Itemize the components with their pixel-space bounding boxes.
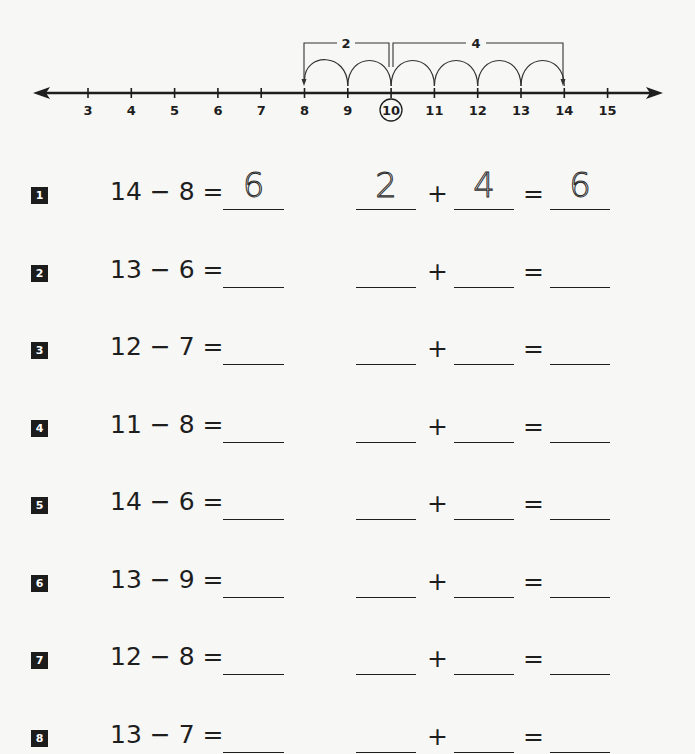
plus-sign: + [427, 489, 448, 518]
tick-label: 15 [599, 103, 617, 118]
problem-row: 7 12 − 8 = + = [0, 640, 695, 680]
jump-arc [391, 61, 434, 87]
first-addend-blank[interactable] [356, 442, 416, 443]
plus-sign: + [427, 722, 448, 751]
bracket-2-label: 2 [341, 36, 350, 51]
arrowhead-at-8 [302, 79, 307, 86]
second-addend-blank[interactable] [454, 674, 514, 675]
tick-label: 6 [213, 103, 222, 118]
first-addend-blank[interactable] [356, 597, 416, 598]
difference-answer-blank[interactable] [223, 442, 284, 443]
tick-label: 9 [343, 103, 352, 118]
problem-number-badge: 5 [31, 497, 48, 514]
problem-row: 4 11 − 8 = + = [0, 408, 695, 448]
tick-labels: 3456789101112131415 [83, 103, 616, 118]
problem-number-badge: 3 [31, 342, 48, 359]
tick-label: 4 [127, 103, 136, 118]
second-addend-blank[interactable] [454, 209, 514, 210]
second-addend-blank[interactable] [454, 287, 514, 288]
jump-arcs [305, 60, 565, 86]
equals-sign: = [523, 179, 544, 208]
tick-label: 14 [555, 103, 573, 118]
plus-sign: + [427, 179, 448, 208]
tick-label: 3 [83, 103, 92, 118]
equals-sign: = [523, 257, 544, 286]
sum-answer-blank[interactable] [550, 519, 610, 520]
difference-answer-blank[interactable] [223, 209, 284, 210]
tick-label: 13 [512, 103, 530, 118]
jump-arc [521, 61, 564, 87]
plus-sign: + [427, 257, 448, 286]
subtraction-expression: 11 − 8 = [110, 410, 223, 439]
sum-answer-blank[interactable] [550, 752, 610, 753]
equals-sign: = [523, 644, 544, 673]
subtraction-expression: 14 − 8 = [110, 177, 223, 206]
sum-answer-blank[interactable] [550, 674, 610, 675]
bracket-4-label: 4 [471, 36, 480, 51]
tick-label: 12 [469, 103, 487, 118]
sum-answer-blank[interactable] [550, 442, 610, 443]
difference-traced-answer: 6 [223, 165, 284, 205]
first-addend-blank[interactable] [356, 519, 416, 520]
difference-answer-blank[interactable] [223, 287, 284, 288]
first-addend-blank[interactable] [356, 209, 416, 210]
problem-row: 2 13 − 6 = + = [0, 253, 695, 293]
second-addend-blank[interactable] [454, 519, 514, 520]
sum-answer-blank[interactable] [550, 597, 610, 598]
second-addend-blank[interactable] [454, 597, 514, 598]
equals-sign: = [523, 412, 544, 441]
problem-number-badge: 2 [31, 265, 48, 282]
tick-label: 7 [257, 103, 266, 118]
sum-answer-blank[interactable] [550, 287, 610, 288]
jump-arc [305, 60, 348, 86]
equals-sign: = [523, 722, 544, 751]
number-line: 3456789101112131415 2 4 [0, 0, 695, 135]
plus-sign: + [427, 567, 448, 596]
second-addend-traced: 4 [454, 165, 514, 205]
plus-sign: + [427, 644, 448, 673]
subtraction-expression: 13 − 9 = [110, 565, 223, 594]
problem-row: 1 14 − 8 = 6 2 + 4 = 6 [0, 175, 695, 215]
sum-answer-blank[interactable] [550, 364, 610, 365]
tick-label: 11 [425, 103, 443, 118]
problem-row: 8 13 − 7 = + = [0, 718, 695, 754]
jump-arc [434, 61, 477, 87]
subtraction-expression: 12 − 7 = [110, 332, 223, 361]
tick-label: 8 [300, 103, 309, 118]
jump-arc [348, 61, 391, 87]
tick-label: 5 [170, 103, 179, 118]
problem-row: 5 14 − 6 = + = [0, 485, 695, 525]
second-addend-blank[interactable] [454, 364, 514, 365]
sum-answer-blank[interactable] [550, 209, 610, 210]
problem-number-badge: 7 [31, 652, 48, 669]
problem-row: 6 13 − 9 = + = [0, 563, 695, 603]
plus-sign: + [427, 412, 448, 441]
subtraction-expression: 13 − 6 = [110, 255, 223, 284]
difference-answer-blank[interactable] [223, 752, 284, 753]
problem-number-badge: 1 [31, 187, 48, 204]
bracket-4 [393, 43, 466, 67]
first-addend-traced: 2 [356, 165, 416, 205]
difference-answer-blank[interactable] [223, 519, 284, 520]
plus-sign: + [427, 334, 448, 363]
problem-number-badge: 8 [31, 730, 48, 747]
subtraction-expression: 12 − 8 = [110, 642, 223, 671]
difference-answer-blank[interactable] [223, 364, 284, 365]
equals-sign: = [523, 489, 544, 518]
second-addend-blank[interactable] [454, 752, 514, 753]
problem-number-badge: 6 [31, 575, 48, 592]
subtraction-expression: 14 − 6 = [110, 487, 223, 516]
first-addend-blank[interactable] [356, 287, 416, 288]
subtraction-expression: 13 − 7 = [110, 720, 223, 749]
equals-sign: = [523, 334, 544, 363]
problem-number-badge: 4 [31, 420, 48, 437]
jump-arc [478, 61, 521, 87]
difference-answer-blank[interactable] [223, 597, 284, 598]
second-addend-blank[interactable] [454, 442, 514, 443]
equals-sign: = [523, 567, 544, 596]
first-addend-blank[interactable] [356, 752, 416, 753]
first-addend-blank[interactable] [356, 364, 416, 365]
tick-label: 10 [382, 103, 400, 118]
difference-answer-blank[interactable] [223, 674, 284, 675]
first-addend-blank[interactable] [356, 674, 416, 675]
